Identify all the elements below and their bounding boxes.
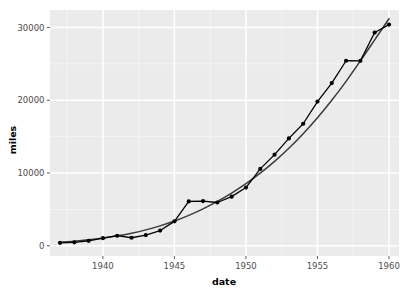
- data-point: [87, 239, 91, 243]
- data-point: [258, 167, 262, 171]
- y-axis-title: miles: [7, 125, 18, 154]
- data-point: [201, 199, 205, 203]
- y-tick-label: 10000: [17, 168, 44, 178]
- data-point: [101, 236, 105, 240]
- x-axis-title: date: [212, 276, 236, 287]
- data-point: [58, 241, 62, 245]
- data-point: [315, 99, 319, 103]
- x-tick-label: 1945: [164, 261, 186, 271]
- data-point: [373, 30, 377, 34]
- y-tick-label: 20000: [17, 95, 44, 105]
- x-tick-label: 1955: [307, 261, 329, 271]
- data-point: [301, 122, 305, 126]
- data-point: [230, 195, 234, 199]
- data-point: [72, 240, 76, 244]
- data-point: [344, 59, 348, 63]
- data-point: [144, 233, 148, 237]
- x-tick-label: 1950: [235, 261, 257, 271]
- data-point: [287, 136, 291, 140]
- line-chart: 19401945195019551960 0100002000030000 da…: [0, 0, 417, 291]
- data-point: [115, 234, 119, 238]
- data-point: [158, 228, 162, 232]
- data-point: [387, 22, 391, 26]
- data-point: [172, 219, 176, 223]
- x-tick-label: 1960: [378, 261, 400, 271]
- data-point: [215, 200, 219, 204]
- data-point: [244, 185, 248, 189]
- y-tick-label: 0: [39, 241, 44, 251]
- data-point: [358, 59, 362, 63]
- x-tick-label: 1940: [92, 261, 114, 271]
- data-point: [330, 81, 334, 85]
- chart-container: 19401945195019551960 0100002000030000 da…: [0, 0, 417, 291]
- data-point: [129, 236, 133, 240]
- data-point: [187, 199, 191, 203]
- y-tick-label: 30000: [17, 23, 44, 33]
- data-point: [272, 153, 276, 157]
